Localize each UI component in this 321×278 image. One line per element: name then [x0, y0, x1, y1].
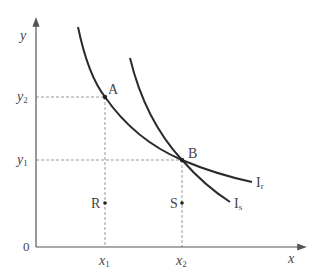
point-b	[103, 95, 107, 99]
label-b: A	[108, 82, 119, 97]
point-s	[180, 201, 184, 205]
tick-y1: y1	[15, 152, 28, 168]
point-r	[103, 201, 107, 205]
guide-lines	[36, 97, 182, 247]
tick-y2: y2	[15, 89, 28, 105]
y-axis-label: y	[18, 28, 27, 43]
point-a	[180, 158, 184, 162]
x-axis-label: x	[287, 251, 295, 266]
curve-ir	[78, 27, 252, 182]
label-a: B	[188, 146, 197, 161]
indifference-curve-diagram: y x 0 y2 y1 x1 x2 A B R S Ir Is	[0, 0, 321, 278]
label-s: S	[170, 196, 178, 211]
tick-x1: x1	[98, 253, 110, 269]
origin-label: 0	[23, 239, 30, 254]
curve-is	[130, 58, 230, 202]
label-r: R	[91, 196, 101, 211]
label-ir: Ir	[256, 175, 264, 191]
label-is: Is	[234, 196, 243, 212]
tick-x2: x2	[175, 253, 187, 269]
